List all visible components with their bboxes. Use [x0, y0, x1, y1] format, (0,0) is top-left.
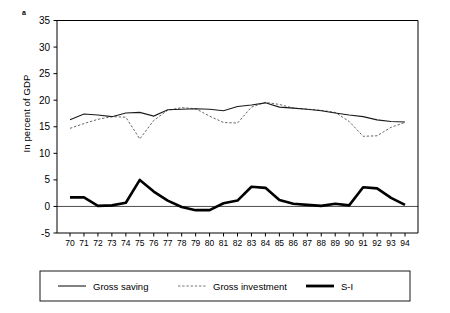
x-tick-label: 87 — [303, 238, 313, 248]
y-tick-label: 5 — [44, 174, 50, 185]
x-tick-label: 84 — [261, 238, 271, 248]
x-tick-label: 79 — [191, 238, 201, 248]
x-tick-label: 92 — [372, 238, 382, 248]
x-tick-label: 81 — [219, 238, 229, 248]
y-tick-label: 0 — [44, 201, 50, 212]
x-tick-label: 71 — [79, 238, 89, 248]
y-axis-tick-marks — [54, 21, 58, 234]
x-tick-label: 77 — [163, 238, 173, 248]
x-axis-tick-labels: 7071727374757677787980818283848586878889… — [65, 238, 410, 248]
x-tick-label: 86 — [289, 238, 299, 248]
series-line-gross-investment — [70, 102, 405, 139]
legend-label-s-i: S-I — [341, 281, 353, 292]
series-line-s-i — [70, 180, 405, 210]
y-tick-label: 35 — [39, 15, 51, 26]
y-tick-label: 15 — [39, 121, 51, 132]
x-tick-label: 76 — [149, 238, 159, 248]
y-tick-label: 30 — [39, 42, 51, 53]
x-tick-label: 82 — [233, 238, 243, 248]
x-tick-label: 91 — [358, 238, 368, 248]
figure-container: a In percent of GDP -505101520253035 707… — [0, 0, 450, 313]
x-tick-label: 80 — [205, 238, 215, 248]
x-tick-label: 73 — [107, 238, 117, 248]
x-tick-label: 94 — [400, 238, 410, 248]
x-tick-label: 83 — [247, 238, 257, 248]
x-tick-label: 85 — [275, 238, 285, 248]
y-tick-label: 20 — [39, 95, 51, 106]
legend-label-gross-saving: Gross saving — [93, 281, 148, 292]
y-tick-label: -5 — [41, 228, 50, 239]
y-tick-label: 25 — [39, 68, 51, 79]
x-tick-label: 93 — [386, 238, 396, 248]
x-tick-label: 90 — [344, 238, 354, 248]
legend-label-gross-investment: Gross investment — [213, 281, 287, 292]
x-tick-label: 78 — [177, 238, 187, 248]
series-line-gross-saving — [70, 103, 405, 122]
y-axis-label: In percent of GDP — [21, 44, 32, 184]
line-chart: -505101520253035 70717273747576777879808… — [0, 0, 450, 313]
x-tick-label: 89 — [330, 238, 340, 248]
x-tick-label: 70 — [65, 238, 75, 248]
x-axis-tick-marks — [70, 233, 405, 237]
y-axis-tick-labels: -505101520253035 — [39, 15, 51, 239]
x-tick-label: 75 — [135, 238, 145, 248]
x-tick-label: 72 — [93, 238, 103, 248]
x-tick-label: 74 — [121, 238, 131, 248]
x-tick-label: 88 — [317, 238, 327, 248]
y-tick-label: 10 — [39, 148, 51, 159]
panel-label: a — [22, 9, 26, 16]
legend: Gross saving Gross investment S-I — [40, 271, 410, 301]
